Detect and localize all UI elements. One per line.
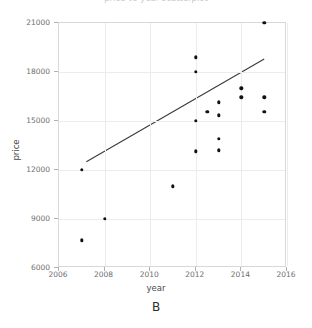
panel-label: B xyxy=(0,300,312,314)
y-axis-tick-label: 18000 xyxy=(10,67,50,76)
gridline-vertical xyxy=(287,23,288,266)
gridline-vertical xyxy=(241,23,242,266)
x-axis-tick-label: 2012 xyxy=(185,270,204,279)
gridline-horizontal xyxy=(59,219,285,220)
x-axis-tick-label: 2006 xyxy=(48,270,67,279)
y-axis-tick-label: 12000 xyxy=(10,165,50,174)
y-axis-tick xyxy=(54,22,58,23)
gridline-horizontal xyxy=(59,72,285,73)
figure-panel-b: price vs year scatterplot price year B 2… xyxy=(0,0,312,328)
y-axis-tick xyxy=(54,169,58,170)
x-axis-tick-label: 2016 xyxy=(276,270,295,279)
y-axis-tick xyxy=(54,218,58,219)
y-axis-tick-label: 21000 xyxy=(10,18,50,27)
y-axis-tick xyxy=(54,120,58,121)
x-axis-tick-label: 2010 xyxy=(140,270,159,279)
clipped-title-text: price vs year scatterplot xyxy=(56,0,256,3)
gridline-horizontal xyxy=(59,170,285,171)
x-axis-tick-label: 2008 xyxy=(94,270,113,279)
regression-line xyxy=(59,23,287,268)
x-axis-title: year xyxy=(0,283,312,293)
y-axis-tick-label: 15000 xyxy=(10,116,50,125)
y-axis-tick-label: 9000 xyxy=(10,214,50,223)
y-axis-tick-label: 6000 xyxy=(10,263,50,272)
x-axis-tick-label: 2014 xyxy=(231,270,250,279)
gridline-vertical xyxy=(150,23,151,266)
clipped-title-strip: price vs year scatterplot xyxy=(0,0,312,11)
plot-area xyxy=(58,22,286,267)
y-axis-tick xyxy=(54,267,58,268)
gridline-vertical xyxy=(196,23,197,266)
y-axis-tick xyxy=(54,71,58,72)
gridline-horizontal xyxy=(59,121,285,122)
gridline-vertical xyxy=(105,23,106,266)
